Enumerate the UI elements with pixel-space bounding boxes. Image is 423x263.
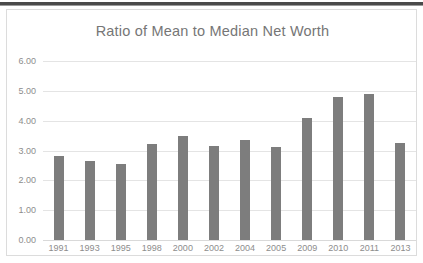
bar-slot [261,61,292,240]
bar-2010[interactable] [333,97,343,240]
chart-title: Ratio of Mean to Median Net Worth [7,23,418,39]
bar-series [43,61,416,240]
y-axis-tick-label: 3.00 [18,146,36,155]
scan-artifact-rule-secondary [0,5,423,6]
bar-1998[interactable] [147,144,157,240]
bar-slot [43,61,74,240]
y-axis: 6.005.004.003.002.001.000.00 [7,61,40,240]
y-axis-tick-label: 5.00 [18,86,36,95]
x-axis-tick-label: 2004 [235,244,255,253]
plot-area [43,61,416,240]
bar-1993[interactable] [85,161,95,240]
bar-2013[interactable] [395,143,405,240]
x-axis-tick-label: 1995 [111,244,131,253]
bar-slot [198,61,229,240]
bar-2000[interactable] [178,136,188,240]
bar-2005[interactable] [271,147,281,240]
x-axis-tick-label: 2000 [173,244,193,253]
x-axis-tick-label: 2009 [297,244,317,253]
bar-2009[interactable] [302,118,312,240]
y-axis-tick-label: 6.00 [18,57,36,66]
chart-container: Ratio of Mean to Median Net Worth 6.005.… [6,9,417,256]
x-axis-tick-label: 1991 [49,244,69,253]
bar-2004[interactable] [240,140,250,240]
x-axis-tick-label: 2010 [328,244,348,253]
bar-slot [230,61,261,240]
y-axis-tick-label: 1.00 [18,206,36,215]
bar-slot [385,61,416,240]
x-axis: 1991199319951998200020022004200520092010… [43,244,416,258]
gridline-0.00 [43,240,416,241]
x-axis-tick-label: 1993 [80,244,100,253]
x-axis-tick-label: 2013 [390,244,410,253]
x-axis-tick-label: 2005 [266,244,286,253]
y-axis-tick-label: 0.00 [18,236,36,245]
bar-slot [167,61,198,240]
y-axis-tick-label: 4.00 [18,116,36,125]
bar-slot [105,61,136,240]
bar-slot [136,61,167,240]
bar-1995[interactable] [116,164,126,240]
x-axis-tick-label: 2002 [204,244,224,253]
bar-slot [354,61,385,240]
x-axis-tick-label: 1998 [142,244,162,253]
bar-slot [323,61,354,240]
bar-slot [292,61,323,240]
y-axis-tick-label: 2.00 [18,176,36,185]
bar-2002[interactable] [209,146,219,240]
bar-slot [74,61,105,240]
x-axis-tick-label: 2011 [360,244,379,253]
bar-1991[interactable] [54,156,64,240]
bar-2011[interactable] [364,94,374,240]
